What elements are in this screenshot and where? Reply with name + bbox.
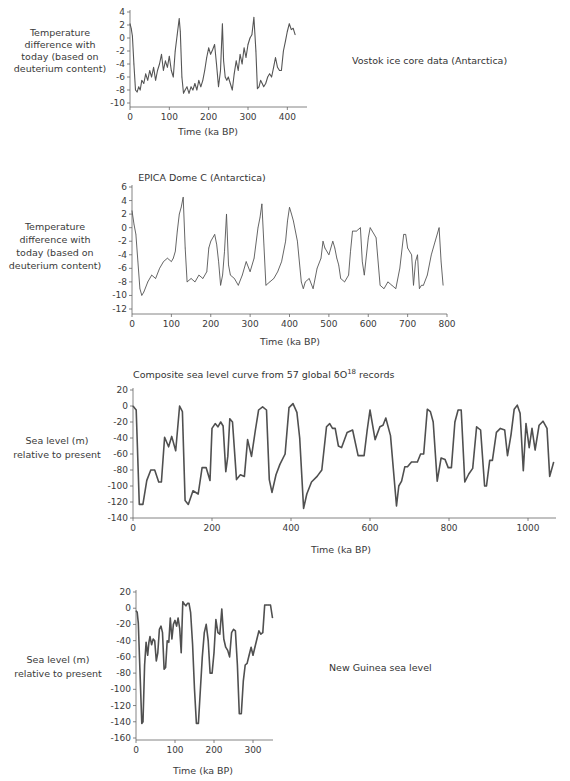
vostok-data-point — [191, 86, 192, 87]
new-guinea-data-point — [140, 669, 141, 670]
vostok-data-point — [169, 56, 170, 57]
vostok-data-point — [260, 80, 261, 81]
new-guinea-data-point — [212, 673, 213, 674]
composite-data-point — [185, 500, 186, 501]
composite-data-point — [370, 410, 371, 411]
composite-data-point — [326, 426, 327, 427]
composite-data-point — [306, 494, 307, 495]
new-guinea-data-point — [149, 642, 150, 643]
vostok-data-point — [281, 70, 282, 71]
new-guinea-xlabel: Time (ka BP) — [172, 765, 233, 776]
epica-data-point — [159, 268, 160, 269]
epica-data-point — [360, 227, 361, 228]
epica-series-line — [132, 197, 443, 295]
vostok-data-point — [246, 57, 247, 58]
vostok-data-point — [262, 83, 263, 84]
vostok-data-point — [277, 67, 278, 68]
composite-data-point — [289, 407, 290, 408]
composite-data-point — [321, 470, 322, 471]
epica-data-point — [421, 285, 422, 286]
composite-data-point — [468, 474, 469, 475]
epica-x-tick-label: 100 — [163, 319, 180, 329]
composite-data-point — [154, 470, 155, 471]
composite-data-point — [255, 430, 256, 431]
epica-data-point — [254, 258, 255, 259]
vostok-data-point — [157, 70, 158, 71]
vostok-data-point — [273, 67, 274, 68]
new-guinea-data-point — [214, 652, 215, 653]
new-guinea-data-point — [179, 628, 180, 629]
composite-data-point — [139, 504, 140, 505]
composite-data-point — [258, 410, 259, 411]
epica-data-point — [413, 285, 414, 286]
epica-data-point — [250, 271, 251, 272]
composite-data-point — [514, 409, 515, 410]
composite-data-point — [401, 481, 402, 482]
vostok-data-point — [151, 77, 152, 78]
epica-data-point — [338, 265, 339, 266]
vostok-data-point — [167, 67, 168, 68]
composite-data-point — [367, 430, 368, 431]
epica-data-point — [181, 207, 182, 208]
vostok-data-point — [183, 93, 184, 94]
epica-data-point — [206, 271, 207, 272]
composite-data-point — [215, 423, 216, 424]
vostok-data-point — [289, 23, 290, 24]
epica-data-point — [230, 275, 231, 276]
composite-data-point — [484, 486, 485, 487]
composite-data-point — [146, 480, 147, 481]
composite-data-point — [417, 462, 418, 463]
composite-data-point — [358, 455, 359, 456]
vostok-data-point — [161, 54, 162, 55]
epica-data-point — [185, 248, 186, 249]
epica-data-point — [403, 234, 404, 235]
epica-data-point — [264, 244, 265, 245]
vostok-data-point — [275, 57, 276, 58]
composite-data-point — [247, 439, 248, 440]
new-guinea-data-point — [253, 655, 254, 656]
vostok-data-point — [248, 44, 249, 45]
composite-data-point — [317, 476, 318, 477]
new-guinea-y-tick-label: 0 — [125, 603, 131, 613]
composite-y-tick-label: 20 — [117, 385, 129, 395]
epica-x-tick-label: 200 — [202, 319, 219, 329]
vostok-data-point — [173, 77, 174, 78]
composite-data-point — [164, 437, 165, 438]
vostok-xlabel: Time (ka BP) — [177, 126, 238, 137]
epica-data-point — [147, 282, 148, 283]
new-guinea-data-point — [182, 601, 183, 602]
new-guinea-data-point — [202, 657, 203, 658]
epica-data-point — [405, 234, 406, 235]
composite-data-point — [210, 480, 211, 481]
composite-ylabel: Sea level (m) relative to present — [13, 435, 101, 460]
composite-title-text: Composite sea level curve from 57 global… — [133, 369, 347, 380]
composite-data-point — [150, 470, 151, 471]
epica-data-point — [388, 282, 389, 283]
new-guinea-data-point — [206, 624, 207, 625]
composite-data-point — [329, 423, 330, 424]
new-guinea-data-point — [231, 632, 232, 633]
epica-data-point — [262, 204, 263, 205]
epica-ylabel-line-2: difference with — [20, 234, 91, 245]
vostok-data-point — [143, 83, 144, 84]
epica-y-tick-label: 0 — [121, 223, 127, 233]
new-guinea-data-point — [156, 661, 157, 662]
composite-data-point — [220, 422, 221, 423]
composite-data-point — [553, 462, 554, 463]
new-guinea-data-point — [272, 618, 273, 619]
epica-data-point — [317, 268, 318, 269]
epica-data-point — [336, 258, 337, 259]
composite-data-point — [396, 506, 397, 507]
epica-data-point — [187, 282, 188, 283]
vostok-data-point — [259, 86, 260, 87]
epica-data-point — [364, 275, 365, 276]
composite-data-point — [347, 432, 348, 433]
epica-data-point — [392, 285, 393, 286]
epica-data-point — [141, 295, 142, 296]
composite-data-point — [445, 459, 446, 460]
epica-data-point — [222, 275, 223, 276]
new-guinea-data-point — [144, 665, 145, 666]
vostok-data-point — [134, 64, 135, 65]
composite-x-tick-label: 0 — [130, 523, 136, 533]
vostok-data-point — [163, 70, 164, 71]
